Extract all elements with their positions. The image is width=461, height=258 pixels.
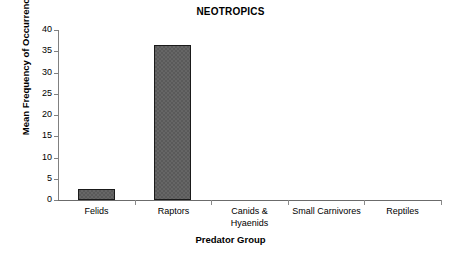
y-tick-label: 35 bbox=[28, 45, 52, 56]
x-tick-mark bbox=[135, 200, 136, 205]
x-category-label: Small Carnivores bbox=[288, 206, 365, 218]
y-tick-mark bbox=[54, 158, 58, 159]
y-tick-mark bbox=[54, 179, 58, 180]
y-axis-line bbox=[58, 30, 59, 200]
chart-title: NEOTROPICS bbox=[0, 6, 461, 18]
y-tick-label: 30 bbox=[28, 67, 52, 78]
y-tick-label: 25 bbox=[28, 88, 52, 99]
x-axis-line bbox=[58, 200, 441, 201]
x-tick-mark bbox=[288, 200, 289, 205]
y-tick-label: 5 bbox=[28, 173, 52, 184]
y-tick-label: 0 bbox=[28, 194, 52, 205]
y-tick-mark bbox=[54, 51, 58, 52]
x-tick-mark bbox=[441, 200, 442, 205]
y-tick-mark bbox=[54, 115, 58, 116]
chart-figure: NEOTROPICS Mean Frequency of Occurrence … bbox=[0, 0, 461, 258]
y-tick-mark bbox=[54, 94, 58, 95]
bar bbox=[154, 45, 191, 200]
bar bbox=[78, 189, 115, 200]
y-tick-mark bbox=[54, 136, 58, 137]
x-category-label: Canids & Hyaenids bbox=[211, 206, 288, 229]
y-tick-label: 20 bbox=[28, 109, 52, 120]
x-axis-title: Predator Group bbox=[0, 234, 461, 245]
x-tick-mark bbox=[364, 200, 365, 205]
x-category-label: Raptors bbox=[135, 206, 212, 218]
y-tick-mark bbox=[54, 200, 58, 201]
x-tick-mark bbox=[211, 200, 212, 205]
x-category-label: Reptiles bbox=[364, 206, 441, 218]
y-tick-label: 15 bbox=[28, 130, 52, 141]
plot-area: 0510152025303540 FelidsRaptorsCanids & H… bbox=[58, 30, 441, 200]
y-tick-label: 40 bbox=[28, 24, 52, 35]
y-tick-mark bbox=[54, 30, 58, 31]
x-category-label: Felids bbox=[58, 206, 135, 218]
y-tick-label: 10 bbox=[28, 152, 52, 163]
y-tick-mark bbox=[54, 73, 58, 74]
